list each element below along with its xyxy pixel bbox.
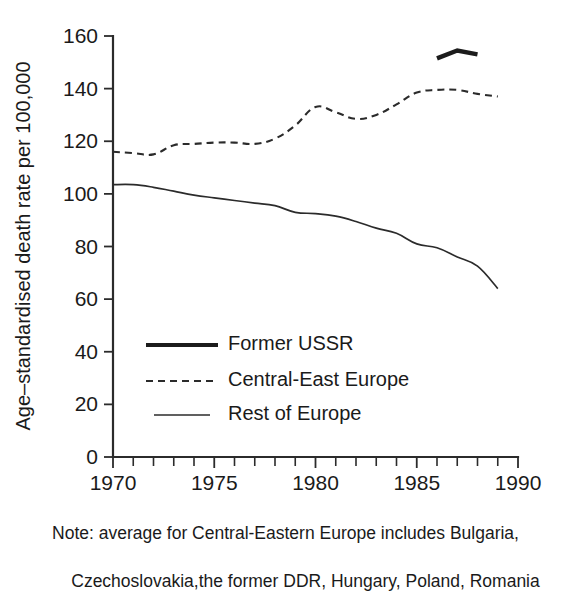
y-tick-label: 160: [63, 24, 98, 47]
note-line-1: Note: average for Central-Eastern Europe…: [0, 521, 571, 545]
chart-note: Note: average for Central-Eastern Europe…: [0, 497, 571, 595]
y-tick-label: 40: [75, 340, 98, 363]
x-tick-label: 1985: [393, 471, 440, 494]
series-line-former-ussr: [437, 51, 478, 59]
y-tick-label: 60: [75, 287, 98, 310]
x-tick-label: 1975: [191, 471, 238, 494]
y-axis-tick-labels: 020406080100120140160: [63, 24, 98, 468]
chart-legend: Former USSRCentral-East EuropeRest of Eu…: [146, 332, 409, 424]
y-tick-label: 80: [75, 235, 98, 258]
x-axis-tick-labels: 19701975198019851990: [90, 471, 542, 494]
x-tick-label: 1990: [495, 471, 542, 494]
legend-item: Former USSR: [146, 332, 354, 354]
y-tick-label: 120: [63, 129, 98, 152]
legend-label: Rest of Europe: [228, 402, 361, 424]
legend-label: Former USSR: [228, 332, 354, 354]
series-line-rest-of-europe: [113, 184, 498, 288]
legend-item: Rest of Europe: [154, 402, 361, 424]
y-tick-label: 0: [86, 445, 98, 468]
y-axis-title: Age–standardised death rate per 100,000: [12, 61, 34, 430]
x-tick-label: 1980: [292, 471, 339, 494]
x-tick-label: 1970: [90, 471, 137, 494]
y-tick-label: 20: [75, 392, 98, 415]
series-line-central-east-europe: [113, 89, 498, 154]
y-tick-label: 140: [63, 77, 98, 100]
y-axis-ticks: [104, 36, 113, 457]
note-line-2: Czechoslovakia,the former DDR, Hungary, …: [0, 569, 571, 593]
legend-item: Central-East Europe: [146, 368, 409, 390]
legend-label: Central-East Europe: [228, 368, 409, 390]
y-tick-label: 100: [63, 182, 98, 205]
